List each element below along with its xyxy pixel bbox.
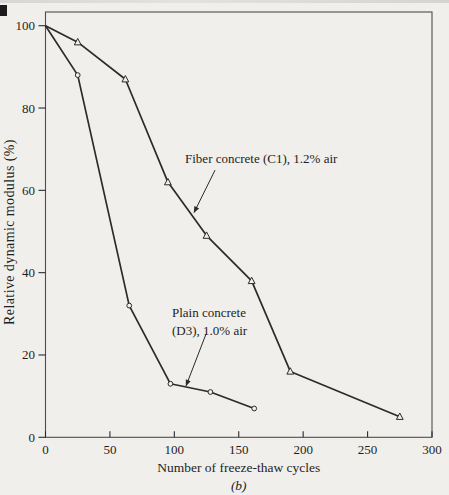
y-tick-label: 0 xyxy=(29,430,36,445)
x-tick-label: 100 xyxy=(165,442,185,457)
marker-circle xyxy=(75,73,80,78)
x-tick-label: 300 xyxy=(422,442,442,457)
y-tick-label: 20 xyxy=(22,347,35,362)
marker-triangle xyxy=(287,368,294,374)
freeze-thaw-line-chart: 020406080100050100150200250300Number of … xyxy=(0,0,449,495)
series-line-plain xyxy=(46,26,255,409)
x-tick-label: 150 xyxy=(229,442,249,457)
plot-border xyxy=(46,12,433,437)
scan-artifact-top-edge xyxy=(0,0,449,3)
marker-circle xyxy=(252,406,257,411)
x-tick-label: 50 xyxy=(103,442,116,457)
y-tick-label: 40 xyxy=(22,265,35,280)
annotation-arrow-fiber-label xyxy=(194,170,215,212)
marker-circle xyxy=(127,303,132,308)
figure-caption: (b) xyxy=(231,478,247,493)
x-tick-label: 250 xyxy=(358,442,378,457)
figure-panel-b: 020406080100050100150200250300Number of … xyxy=(0,0,449,495)
annotation-plain-label: Plain concrete(D3), 1.0% air xyxy=(172,305,248,338)
x-tick-label: 0 xyxy=(42,442,49,457)
marker-circle xyxy=(208,390,213,395)
y-tick-label: 80 xyxy=(22,101,35,116)
marker-circle xyxy=(168,381,173,386)
marker-triangle xyxy=(164,178,171,184)
annotation-arrow-plain-label xyxy=(186,334,206,386)
annotation-fiber-label: Fiber concrete (C1), 1.2% air xyxy=(185,151,338,166)
x-axis-title: Number of freeze-thaw cycles xyxy=(157,460,320,475)
x-tick-label: 200 xyxy=(293,442,313,457)
y-tick-label: 60 xyxy=(22,183,35,198)
y-axis-title: Relative dynamic modulus (%) xyxy=(2,139,18,325)
scan-artifact-corner-mark xyxy=(0,5,7,16)
series-line-fiber xyxy=(46,26,400,417)
y-tick-label: 100 xyxy=(16,18,36,33)
